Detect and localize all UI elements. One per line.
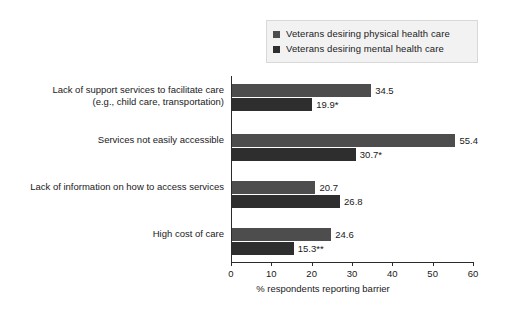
x-tick-50 [433,262,434,266]
bar-mental-2 [232,195,340,208]
x-axis-title-text: % respondents reporting barrier [256,283,390,294]
category-label-1: Services not easily accessible [6,134,224,146]
plot-area: 0102030405060 Lack of support services t… [231,76,473,262]
category-label-1-line-0: Services not easily accessible [6,134,224,146]
x-tick-label-60: 60 [468,268,479,279]
bar-value-physical-0: 34.5 [371,84,394,97]
bar-chart: Veterans desiring physical health care V… [0,0,530,311]
category-label-0-line-1: (e.g., child care, transportation) [6,96,224,108]
bar-value-mental-0: 19.9* [312,98,338,111]
legend-item-physical: Veterans desiring physical health care [273,27,470,41]
bar-mental-3 [232,242,294,255]
x-tick-60 [473,262,474,266]
bar-value-physical-3: 24.6 [331,228,354,241]
x-tick-label-40: 40 [387,268,398,279]
x-tick-10 [271,262,272,266]
x-axis-title: % respondents reporting barrier [0,283,530,294]
bar-value-mental-1: 30.7* [356,148,382,161]
bar-mental-0 [232,98,312,111]
x-tick-label-10: 10 [266,268,277,279]
legend-item-mental: Veterans desiring mental health care [273,42,470,56]
category-label-2-line-0: Lack of information on how to access ser… [6,181,224,193]
x-tick-30 [352,262,353,266]
x-tick-label-20: 20 [306,268,317,279]
legend-label-mental: Veterans desiring mental health care [286,42,444,56]
bar-physical-1 [232,134,455,147]
bar-value-mental-2: 26.8 [340,195,363,208]
bar-value-physical-2: 20.7 [315,181,338,194]
x-tick-40 [392,262,393,266]
category-label-2: Lack of information on how to access ser… [6,181,224,193]
category-label-3-line-0: High cost of care [6,228,224,240]
bar-value-physical-1: 55.4 [455,134,478,147]
legend-swatch-physical [273,31,280,38]
legend-swatch-mental [273,46,280,53]
chart-legend: Veterans desiring physical health care V… [266,20,478,63]
x-tick-0 [231,262,232,266]
x-tick-20 [312,262,313,266]
category-label-3: High cost of care [6,228,224,240]
bar-physical-0 [232,84,371,97]
bar-mental-1 [232,148,356,161]
x-tick-label-30: 30 [347,268,358,279]
bar-physical-2 [232,181,315,194]
category-label-0-line-0: Lack of support services to facilitate c… [6,84,224,96]
category-label-0: Lack of support services to facilitate c… [6,84,224,107]
bar-value-mental-3: 15.3** [294,242,324,255]
x-tick-label-0: 0 [228,268,233,279]
bar-physical-3 [232,228,331,241]
legend-label-physical: Veterans desiring physical health care [286,27,450,41]
x-tick-label-50: 50 [427,268,438,279]
